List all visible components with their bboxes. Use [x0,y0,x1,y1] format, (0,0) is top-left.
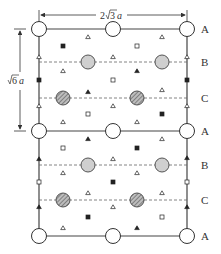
layer-label: A [201,230,209,242]
c-atom-hatched-circle [130,91,144,105]
filled-square-icon [86,215,90,219]
a-atom-open-circle [180,22,195,37]
open-triangle-icon [111,205,116,209]
open-triangle-icon [111,157,116,161]
open-square-icon [37,180,41,184]
filled-square-icon [61,44,65,48]
dim-v-radical: 6 [12,75,17,86]
filled-square-icon [135,146,139,150]
crystal-stacking-diagram: 2 3 a 6 a A B C A B C A [0,0,221,254]
layer-label: C [201,92,208,104]
c-atom-hatched-circle [56,193,70,207]
open-triangle-icon [111,55,116,59]
layer-label: A [201,23,209,35]
filled-triangle-icon [37,157,42,161]
a-atom-open-circle [106,229,121,244]
a-atom-open-circle [106,124,121,139]
b-atom-grey-circle [81,55,95,69]
open-square-icon [61,146,65,150]
dim-h-radical: 3 [110,10,115,21]
open-square-icon [160,215,164,219]
dim-v-unit: a [19,75,24,86]
open-triangle-icon [185,104,190,108]
open-triangle-icon [135,171,140,175]
vertical-dimension: 6 a [8,29,26,131]
open-triangle-icon [160,88,165,92]
open-triangle-icon [86,191,91,195]
layer-label: B [201,56,208,68]
filled-triangle-icon [86,90,91,94]
layer-label: A [201,125,209,137]
b-atom-grey-circle [155,55,169,69]
open-triangle-icon [37,55,42,59]
unit-cell [32,22,195,244]
a-atom-open-circle [180,124,195,139]
filled-triangle-icon [185,156,190,160]
layer-label: B [201,159,208,171]
dim-h-coef: 2 [100,10,105,21]
filled-triangle-icon [185,205,190,209]
filled-triangle-icon [86,137,91,141]
open-triangle-icon [160,35,165,39]
open-triangle-icon [160,191,165,195]
a-atom-open-circle [180,229,195,244]
filled-triangle-icon [135,69,140,73]
open-square-icon [185,180,189,184]
open-triangle-icon [86,35,91,39]
filled-triangle-icon [37,205,42,209]
open-square-icon [135,44,139,48]
open-triangle-icon [135,120,140,124]
dim-h-unit: a [117,10,122,21]
horizontal-dimension: 2 3 a [39,10,187,22]
a-atom-open-circle [32,22,47,37]
filled-square-icon [111,180,115,184]
filled-square-icon [160,112,164,116]
open-triangle-icon [61,171,66,175]
b-atom-grey-circle [81,158,95,172]
open-square-icon [111,78,115,82]
c-atom-hatched-circle [56,91,70,105]
open-triangle-icon [61,226,66,230]
filled-square-icon [185,78,189,82]
b-atom-grey-circle [155,158,169,172]
filled-triangle-icon [135,226,140,230]
open-triangle-icon [185,55,190,59]
filled-square-icon [37,78,41,82]
open-square-icon [86,112,90,116]
open-triangle-icon [37,104,42,108]
a-atom-open-circle [32,229,47,244]
a-atom-open-circle [106,22,121,37]
open-triangle-icon [160,137,165,141]
layer-label: C [201,194,208,206]
a-atom-open-circle [32,124,47,139]
open-triangle-icon [61,69,66,73]
open-triangle-icon [111,104,116,108]
open-triangle-icon [61,120,66,124]
c-atom-hatched-circle [130,193,144,207]
